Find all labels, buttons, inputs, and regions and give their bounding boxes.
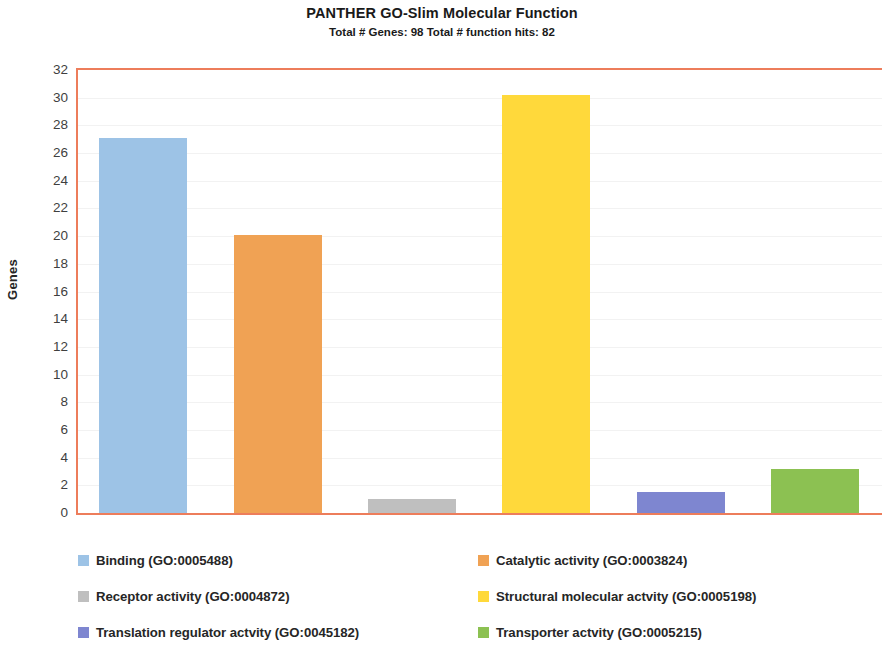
bar [637,492,725,513]
bar [99,138,187,513]
legend-item[interactable]: Binding (GO:0005488) [78,545,233,575]
y-axis-tick-label: 24 [28,174,68,188]
legend-color-swatch-icon [478,591,489,602]
y-axis-tick-label: 6 [28,423,68,437]
y-axis-tick-label: 4 [28,451,68,465]
y-axis-tick-label: 14 [28,312,68,326]
y-axis-tick-label: 26 [28,146,68,160]
legend-label: Receptor activity (GO:0004872) [96,589,289,604]
legend-item[interactable]: Receptor activity (GO:0004872) [78,581,289,611]
legend-row: Binding (GO:0005488)Catalytic activity (… [78,545,884,575]
chart-title: PANTHER GO-Slim Molecular Function [0,4,884,23]
legend-row: Receptor activity (GO:0004872)Structural… [78,581,884,611]
legend-label: Translation regulator actvity (GO:004518… [96,625,359,640]
y-axis-tick-label: 10 [28,368,68,382]
legend-item[interactable]: Catalytic activity (GO:0003824) [478,545,687,575]
y-axis-tick-label: 20 [28,229,68,243]
chart-header: PANTHER GO-Slim Molecular Function Total… [0,4,884,41]
y-axis-tick-label: 18 [28,257,68,271]
bar [771,469,859,513]
y-axis-tick-label: 28 [28,118,68,132]
legend-label: Binding (GO:0005488) [96,553,233,568]
bar [234,235,322,513]
y-axis-tick-label: 2 [28,478,68,492]
legend-color-swatch-icon [478,555,489,566]
y-axis-tick-label: 8 [28,395,68,409]
legend-label: Catalytic activity (GO:0003824) [496,553,687,568]
legend-label: Transporter actvity (GO:0005215) [496,625,702,640]
chart-subtitle: Total # Genes: 98 Total # function hits:… [0,24,884,41]
legend-color-swatch-icon [78,627,89,638]
legend-item[interactable]: Structural molecular actvity (GO:0005198… [478,581,756,611]
legend-row: Translation regulator actvity (GO:004518… [78,617,884,645]
legend-item[interactable]: Transporter actvity (GO:0005215) [478,617,702,645]
legend-color-swatch-icon [78,555,89,566]
chart-legend: Binding (GO:0005488)Catalytic activity (… [78,545,884,645]
y-axis-tick-label: 22 [28,201,68,215]
bar-series [76,68,882,515]
y-axis-tick-label: 30 [28,91,68,105]
y-axis-tick-label: 12 [28,340,68,354]
legend-color-swatch-icon [478,627,489,638]
bar [368,499,456,513]
y-axis-tick-label: 0 [28,506,68,520]
y-axis-tick-labels: 32302826242220181614121086420 [0,68,76,515]
y-axis-tick-label: 16 [28,285,68,299]
legend-item[interactable]: Translation regulator actvity (GO:004518… [78,617,359,645]
legend-label: Structural molecular actvity (GO:0005198… [496,589,756,604]
legend-color-swatch-icon [78,591,89,602]
bar [502,95,590,513]
plot-area [76,68,882,515]
y-axis-tick-label: 32 [28,63,68,77]
